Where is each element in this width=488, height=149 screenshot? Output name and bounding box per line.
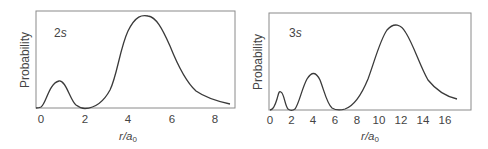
orbital-label-3s: 3s (289, 26, 302, 40)
x-tick: 2 (82, 113, 88, 125)
x-tick: 8 (354, 114, 360, 126)
x-tick: 6 (332, 114, 338, 126)
x-tick: 2 (288, 114, 294, 126)
x-tick: 10 (373, 114, 386, 126)
x-tick-labels: 0 2 4 6 8 (38, 113, 218, 125)
y-axis-label: Probability (251, 34, 265, 90)
chart-3s: 3s Probability 0 2 4 6 8 10 12 14 16 r/a… (244, 0, 488, 149)
orbital-label-2s: 2s (54, 26, 67, 40)
x-axis-label: r/a0 (119, 130, 137, 144)
y-axis-label: Probability (18, 32, 32, 88)
x-tick: 6 (169, 113, 175, 125)
x-tick: 12 (395, 114, 408, 126)
x-tick: 16 (439, 114, 452, 126)
x-tick: 14 (417, 114, 430, 126)
x-tick: 0 (38, 113, 44, 125)
x-tick: 4 (310, 114, 317, 126)
x-tick: 8 (212, 113, 218, 125)
x-axis-label: r/a0 (361, 130, 379, 144)
x-tick: 0 (267, 114, 273, 126)
x-tick-labels: 0 2 4 6 8 10 12 14 16 (267, 114, 452, 126)
chart-2s: 2s Probability 0 2 4 6 8 r/a0 (0, 0, 244, 149)
x-tick: 4 (125, 113, 132, 125)
